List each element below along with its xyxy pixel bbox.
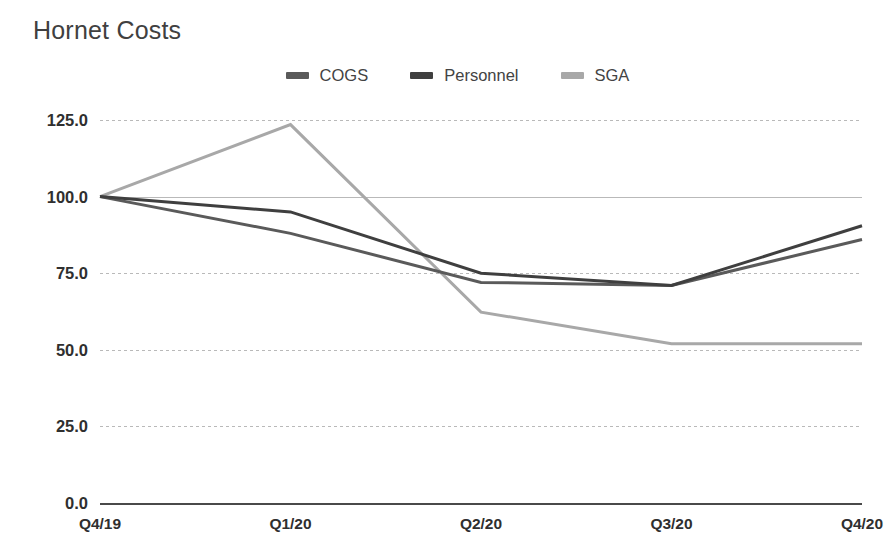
series-line-sga: [100, 125, 862, 344]
chart-legend: COGS Personnel SGA: [0, 66, 893, 85]
y-tick-label: 25.0: [56, 417, 88, 436]
x-tick-label: Q4/20: [841, 515, 883, 533]
chart-title: Hornet Costs: [33, 16, 181, 45]
legend-item-sga[interactable]: SGA: [561, 66, 630, 85]
series-lines: [100, 120, 862, 503]
legend-label-personnel: Personnel: [444, 66, 518, 85]
plot-area: 0.025.050.075.0100.0125.0 Q4/19Q1/20Q2/2…: [100, 120, 862, 503]
x-tick-label: Q2/20: [460, 515, 502, 533]
x-tick-label: Q4/19: [79, 515, 121, 533]
y-tick-label: 125.0: [47, 111, 88, 130]
x-tick-label: Q1/20: [269, 515, 311, 533]
legend-swatch-cogs: [286, 72, 309, 79]
legend-item-personnel[interactable]: Personnel: [410, 66, 518, 85]
legend-label-cogs: COGS: [320, 66, 369, 85]
series-line-personnel: [100, 197, 862, 286]
gridline-0: [100, 503, 862, 505]
legend-swatch-sga: [561, 72, 584, 79]
y-tick-label: 75.0: [56, 264, 88, 283]
y-tick-label: 100.0: [47, 187, 88, 206]
legend-item-cogs[interactable]: COGS: [286, 66, 369, 85]
x-tick-label: Q3/20: [650, 515, 692, 533]
chart-container: Hornet Costs COGS Personnel SGA 0.025.05…: [0, 0, 893, 539]
legend-label-sga: SGA: [595, 66, 630, 85]
y-tick-label: 50.0: [56, 340, 88, 359]
y-tick-label: 0.0: [65, 494, 88, 513]
legend-swatch-personnel: [410, 72, 433, 79]
